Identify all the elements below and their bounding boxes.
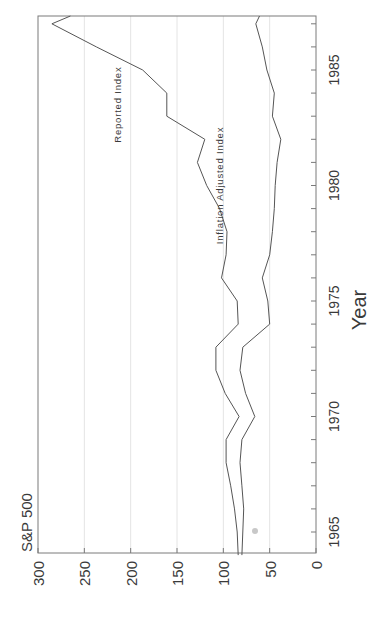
chart-title: S&P 500 [18, 493, 35, 552]
scan-artifact-dot [252, 528, 258, 534]
series-lines [52, 16, 281, 555]
year-tick-label: 1985 [326, 54, 342, 85]
value-tick-label: 200 [123, 561, 140, 586]
value-tick-label: 50 [262, 561, 279, 578]
inflation-adjusted-index-line [240, 16, 281, 555]
year-tick-label: 1970 [326, 401, 342, 432]
value-axis-ticks: 050100150200250300 [30, 548, 325, 586]
value-tick-label: 150 [169, 561, 186, 586]
series-label-inflation-adjusted-index: Inflation Adjusted Index [214, 127, 225, 244]
series-label-reported-index: Reported Index [112, 67, 123, 143]
value-tick-label: 250 [76, 561, 93, 586]
value-tick-label: 300 [30, 561, 47, 586]
reported-index-line [52, 16, 239, 555]
x-axis-label: Year [348, 289, 370, 330]
year-tick-label: 1965 [326, 516, 342, 547]
value-tick-label: 100 [215, 561, 232, 586]
year-tick-label: 1980 [326, 170, 342, 201]
year-tick-label: 1975 [326, 285, 342, 316]
value-tick-label: 0 [308, 561, 325, 569]
sp500-chart: 050100150200250300 19651970197519801985 … [0, 0, 371, 625]
